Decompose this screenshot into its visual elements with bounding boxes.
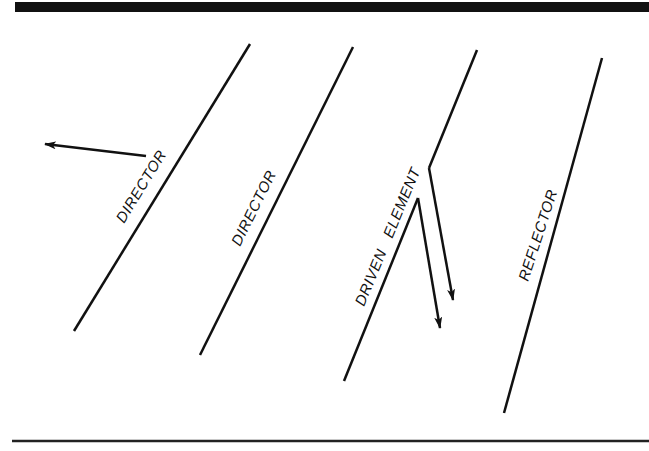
reflector: REFLECTOR [504,58,602,413]
director-2-element-line [200,47,353,355]
director-1-element-line [74,44,250,331]
direction-arrow [45,144,146,156]
driven-element-upper-half [429,50,477,168]
director-1-label: DIRECTOR [112,147,169,226]
driven-element: DRIVEN ELEMENT [344,50,477,381]
driven-element-label: DRIVEN ELEMENT [351,164,424,308]
feedline-wire-2 [418,198,440,328]
director-1: DIRECTOR [74,44,250,331]
top-border-bar [15,2,649,12]
director-2-label: DIRECTOR [227,167,279,248]
director-2: DIRECTOR [200,47,353,355]
reflector-element-line [504,58,602,413]
yagi-antenna-diagram: DIRECTOR DIRECTOR DRIVEN ELEMENT REFLECT… [0,0,649,451]
